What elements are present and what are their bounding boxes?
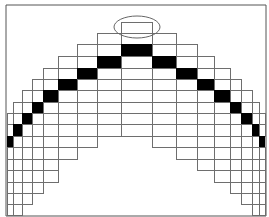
- grid-cell: [122, 103, 153, 114]
- grid-cell: [198, 91, 215, 103]
- grid-cell: [231, 125, 242, 137]
- grid-cell: [177, 137, 198, 148]
- grid-cell: [231, 114, 242, 125]
- grid-cell: [33, 148, 44, 160]
- grid-cell: [215, 114, 231, 125]
- grid-cell: [177, 114, 198, 125]
- grid-cell: [198, 114, 215, 125]
- grid-cell: [253, 205, 260, 216]
- grid-cell: [44, 137, 59, 148]
- grid-cell: [23, 160, 33, 171]
- grid-cell: [8, 114, 14, 125]
- grid-cell: [14, 114, 23, 125]
- grid-cell: [231, 137, 242, 148]
- grid-cell: [215, 171, 231, 183]
- grid-cell: [260, 160, 266, 171]
- grid-cell: [59, 57, 78, 69]
- grid-cell: [198, 57, 215, 69]
- grid-cell: [260, 114, 266, 125]
- grid-cell: [14, 137, 23, 148]
- grid-cell: [253, 194, 260, 205]
- grid-cell: [215, 80, 231, 91]
- highlight-ellipse: [114, 16, 160, 38]
- grid-cell: [153, 114, 177, 125]
- grid-cell: [153, 69, 177, 80]
- grid-cell: [8, 160, 14, 171]
- curve-cell: [43, 90, 58, 102]
- curve-cell: [32, 102, 43, 113]
- grid-cell: [122, 80, 153, 91]
- grid-cell: [59, 103, 78, 114]
- grid-cell: [260, 183, 266, 194]
- curve-cells: [7, 44, 265, 147]
- grid-cell: [260, 125, 266, 137]
- curve-cell: [197, 79, 214, 90]
- grid-cell: [153, 80, 177, 91]
- grid-cell: [253, 137, 260, 148]
- grid-cell: [23, 183, 33, 194]
- grid-cell: [215, 69, 231, 80]
- grid-cell: [242, 103, 253, 114]
- grid-cell: [98, 45, 122, 57]
- grid-cell: [122, 114, 153, 125]
- grid-cell: [231, 171, 242, 183]
- grid-cell: [98, 103, 122, 114]
- grid-cell: [23, 125, 33, 137]
- grid-cell: [33, 114, 44, 125]
- grid-cell: [44, 125, 59, 137]
- grid-cell: [242, 148, 253, 160]
- grid-cell: [98, 114, 122, 125]
- grid-cell: [198, 125, 215, 137]
- grid-cell: [122, 125, 153, 137]
- grid-cell: [98, 91, 122, 103]
- grid-cell: [215, 103, 231, 114]
- grid-cell: [242, 194, 253, 205]
- grid-cell: [231, 183, 242, 194]
- grid-cell: [78, 57, 98, 69]
- grid-cell: [14, 148, 23, 160]
- curve-cell: [58, 79, 77, 90]
- grid-cell: [177, 80, 198, 91]
- grid-cell: [8, 205, 14, 216]
- grid-cell: [242, 160, 253, 171]
- grid-cell: [177, 148, 198, 160]
- grid-cell: [44, 69, 59, 80]
- grid-cell: [98, 69, 122, 80]
- grid-cell: [23, 103, 33, 114]
- grid-cell: [260, 205, 266, 216]
- grid-cell: [33, 160, 44, 171]
- grid-cell: [215, 137, 231, 148]
- grid-cell: [59, 148, 78, 160]
- grid-cell: [59, 125, 78, 137]
- grid-cell: [177, 91, 198, 103]
- grid-cell: [14, 103, 23, 114]
- grid-cell: [14, 160, 23, 171]
- grid-cell: [44, 114, 59, 125]
- grid-cell: [177, 103, 198, 114]
- grid-cell: [44, 80, 59, 91]
- grid-cell: [8, 171, 14, 183]
- grid-cell: [198, 103, 215, 114]
- curve-cell: [176, 68, 197, 79]
- grid-cell: [14, 194, 23, 205]
- grid-cell: [153, 45, 177, 57]
- grid-cell: [215, 125, 231, 137]
- grid-cell: [8, 194, 14, 205]
- grid-cell: [153, 103, 177, 114]
- grid-cell: [260, 194, 266, 205]
- grid-cell: [23, 148, 33, 160]
- grid-cell: [253, 160, 260, 171]
- grid-cell: [253, 114, 260, 125]
- grid-cell: [153, 34, 177, 45]
- grid-cell: [242, 137, 253, 148]
- curve-cell: [241, 113, 252, 124]
- grid-cell: [253, 103, 260, 114]
- grid-cell: [23, 171, 33, 183]
- grid-cell: [177, 45, 198, 57]
- curve-cell: [121, 44, 152, 56]
- grid-cell: [153, 137, 177, 148]
- grid-cell: [153, 91, 177, 103]
- grid-cell: [59, 137, 78, 148]
- grid-cell: [8, 125, 14, 137]
- grid-cell: [231, 160, 242, 171]
